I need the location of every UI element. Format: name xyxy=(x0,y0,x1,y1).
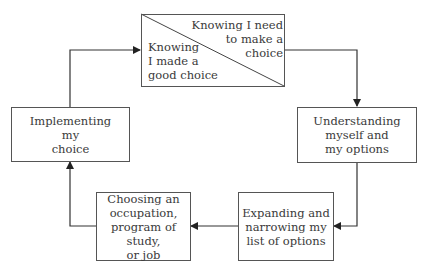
node-left-label: Implementing my choice xyxy=(30,114,111,156)
arrow-right-to-bottom-right xyxy=(334,162,357,226)
arrow-top-to-right xyxy=(284,50,357,106)
arrow-left-to-top xyxy=(70,50,140,107)
node-bottom-left: Choosing an occupation, program of study… xyxy=(96,192,191,261)
node-bottom-right-label: Expanding and narrowing my list of optio… xyxy=(242,206,330,248)
node-top-lower-left-text: Knowing I made a good choice xyxy=(148,40,218,82)
arrow-bottom-left-to-left xyxy=(70,162,96,226)
node-left: Implementing my choice xyxy=(11,107,130,162)
node-bottom-left-label: Choosing an occupation, program of study… xyxy=(97,192,190,262)
node-bottom-right: Expanding and narrowing my list of optio… xyxy=(238,192,334,261)
node-right: Understanding myself and my options xyxy=(297,107,417,163)
node-right-label: Understanding myself and my options xyxy=(313,114,400,156)
